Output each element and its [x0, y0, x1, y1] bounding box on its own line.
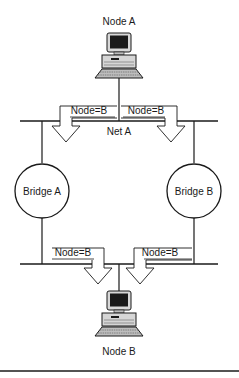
bridge-loop-diagram: Node A Net A Node=B Node=B Bridge A Brid…	[0, 0, 239, 378]
frame-label-top-left: Node=B	[71, 105, 108, 116]
bridge-b-label: Bridge B	[175, 186, 214, 197]
node-b-label: Node B	[102, 346, 136, 357]
node-b-computer-icon	[95, 291, 143, 336]
frame-label-bottom-right: Node=B	[142, 247, 179, 258]
net-a-label: Net A	[107, 126, 132, 137]
node-a-label: Node A	[103, 16, 136, 27]
node-a-computer-icon	[95, 33, 143, 78]
frame-label-top-right: Node=B	[128, 105, 165, 116]
frame-label-bottom-left: Node=B	[55, 247, 92, 258]
bridge-a-label: Bridge A	[23, 186, 61, 197]
